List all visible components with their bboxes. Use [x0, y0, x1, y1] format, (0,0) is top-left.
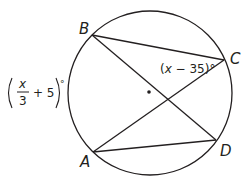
segment-BD: [92, 35, 216, 140]
angle-label-C: (x − 35)°: [160, 62, 215, 76]
point-label-D: D: [220, 142, 232, 160]
fraction-numerator: x: [18, 77, 27, 91]
circle-diagram: B C A D (x − 35)° x 3 + 5 °: [0, 0, 250, 181]
point-label-B: B: [79, 20, 89, 38]
segment-BC: [92, 35, 224, 60]
degree-symbol: °: [60, 79, 65, 89]
arc-label-AB: x 3 + 5 °: [9, 77, 65, 108]
point-label-A: A: [79, 153, 90, 171]
center-dot: [147, 90, 151, 94]
point-label-C: C: [230, 50, 241, 68]
segment-AD: [93, 140, 216, 152]
fraction-denominator: 3: [19, 94, 27, 108]
fraction-addend: + 5: [33, 86, 55, 100]
